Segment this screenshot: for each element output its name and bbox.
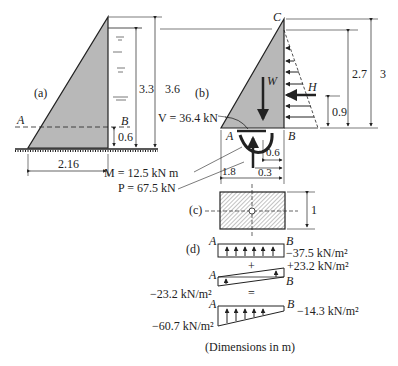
dim-water: 2.7 <box>352 67 367 81</box>
row3-value-b: −14.3 kN/m² <box>297 304 359 318</box>
panel-a-label: (a) <box>34 86 47 100</box>
dim-water-height: 3.3 <box>139 82 154 96</box>
point-a-label: A <box>16 113 25 127</box>
centroid-marker <box>249 208 255 214</box>
dim-section-height: 0.6 <box>118 130 133 144</box>
row2-value-b: +23.2 kN/m² <box>287 259 349 273</box>
moment-m-label: M = 12.5 kN m <box>104 166 179 180</box>
dim-base: 2.16 <box>58 157 79 171</box>
pressure-triangle <box>284 30 318 128</box>
panel-a: A B (a) 3.3 3.6 0.6 2.16 <box>15 17 180 176</box>
equals-sign: = <box>248 286 255 300</box>
panel-b-label: (b) <box>195 86 209 100</box>
point-c-label: C <box>273 10 282 24</box>
dim-width: 1.8 <box>222 165 236 177</box>
panel-d: (d) A B −37.5 kN/m² + A B +23.2 kN/m² −2… <box>150 234 359 333</box>
row3-value-a: −60.7 kN/m² <box>152 319 214 333</box>
resultant-stress-block <box>218 306 284 326</box>
dim-thrust-arm: 0.9 <box>332 105 347 119</box>
dim-depth: 1 <box>311 203 317 217</box>
thrust-label: H <box>307 80 318 94</box>
dam-stress-diagram: A B (a) 3.3 3.6 0.6 2.16 H W <box>0 0 398 366</box>
panel-c: (c) 1 <box>189 184 317 238</box>
dim-dam-height: 3.6 <box>165 82 180 96</box>
row2-value-a: −23.2 kN/m² <box>150 287 212 301</box>
row2-a: A <box>208 268 217 282</box>
point-b-label: B <box>121 114 129 128</box>
row2-b: B <box>286 274 294 288</box>
row3-b: B <box>287 297 295 311</box>
dim-total: 3 <box>380 67 386 81</box>
caption: (Dimensions in m) <box>205 340 295 354</box>
panel-b: H W C A B (b) V = 36.4 kN M = 12.5 kN m … <box>104 10 386 195</box>
shear-v-label: V = 36.4 kN <box>158 111 218 125</box>
row1-value-b: −37.5 kN/m² <box>286 246 348 260</box>
normal-p-label: P = 67.5 kN <box>118 181 176 195</box>
uniform-stress-block <box>218 244 284 257</box>
weight-label: W <box>267 74 278 88</box>
dim-p-offset: 0.3 <box>258 166 272 178</box>
dim-w-offset: 0.6 <box>266 146 280 158</box>
dam-section-a <box>28 17 108 148</box>
plus-sign: + <box>248 259 255 273</box>
point-b-label-b: B <box>288 129 296 143</box>
water-marks <box>113 37 128 100</box>
row3-a: A <box>208 297 217 311</box>
panel-d-label: (d) <box>186 242 200 256</box>
point-a-label-b: A <box>225 129 234 143</box>
row1-a: A <box>208 234 217 248</box>
panel-c-label: (c) <box>189 203 202 217</box>
